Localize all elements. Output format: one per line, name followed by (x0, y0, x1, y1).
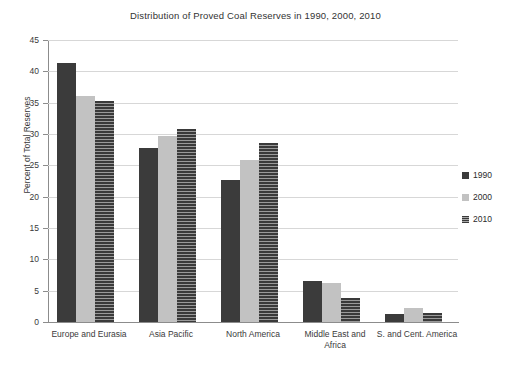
legend-item-1990[interactable]: 1990 (462, 164, 511, 186)
y-axis-label: 20 (0, 192, 39, 202)
y-axis-label: 5 (0, 286, 39, 296)
chart-title: Distribution of Proved Coal Reserves in … (0, 10, 511, 21)
plot-area (48, 40, 458, 322)
bar-chart: Distribution of Proved Coal Reserves in … (0, 0, 511, 370)
y-axis-label: 0 (0, 317, 39, 327)
legend-label: 1990 (473, 170, 492, 180)
bar-group (303, 40, 360, 322)
x-axis-label-line: S. and Cent. America (368, 329, 466, 340)
bar-group (221, 40, 278, 322)
legend-swatch-icon (462, 216, 469, 223)
bar (423, 313, 442, 322)
bar (158, 136, 177, 322)
bar (385, 314, 404, 322)
bar (259, 143, 278, 322)
bar (322, 283, 341, 322)
legend-item-2010[interactable]: 2010 (462, 208, 511, 230)
bar (221, 180, 240, 322)
y-axis-label: 45 (0, 35, 39, 45)
y-axis-label: 30 (0, 129, 39, 139)
bar-group (57, 40, 114, 322)
legend-item-2000[interactable]: 2000 (462, 186, 511, 208)
y-axis-label: 10 (0, 254, 39, 264)
bar-group (385, 40, 442, 322)
bar (303, 281, 322, 322)
bar (76, 96, 95, 322)
x-axis-label-line: Africa (286, 340, 384, 351)
y-axis-label: 35 (0, 98, 39, 108)
legend-swatch-icon (462, 194, 469, 201)
x-axis-label: S. and Cent. America (368, 329, 466, 340)
bar (404, 308, 423, 322)
bar (341, 298, 360, 322)
legend-swatch-icon (462, 172, 469, 179)
legend-label: 2000 (473, 192, 492, 202)
gridline-0 (48, 322, 458, 323)
chart-legend: 199020002010 (462, 164, 511, 230)
bar (95, 101, 114, 322)
bar (57, 63, 76, 322)
bar-group (139, 40, 196, 322)
y-axis-label: 15 (0, 223, 39, 233)
legend-label: 2010 (473, 214, 492, 224)
y-axis-label: 40 (0, 66, 39, 76)
bar (240, 160, 259, 322)
bar (139, 148, 158, 322)
y-axis-label: 25 (0, 160, 39, 170)
bar (177, 129, 196, 322)
